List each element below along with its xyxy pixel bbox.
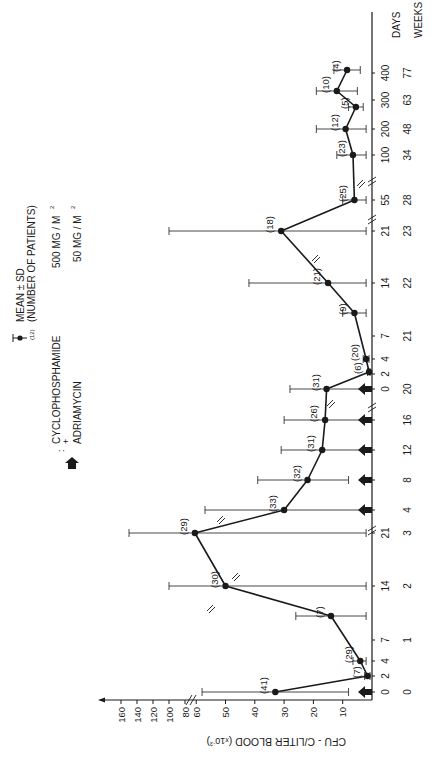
patient-count-label: (29) (178, 518, 189, 535)
data-point (319, 447, 325, 453)
legend-sample-n: (12) (29, 329, 35, 340)
patient-count-label: (10) (320, 76, 331, 93)
x-tick-label-week: 28 (402, 194, 413, 206)
x-tick-label-week: 0 (402, 689, 413, 695)
x-tick-label-week: 21 (402, 330, 413, 342)
x-tick-label-week: 1 (402, 637, 413, 643)
patient-count-label: (5) (339, 97, 350, 109)
data-point (278, 228, 284, 234)
svg-text:CFU - C/LITER BLOOD (x10-3): CFU - C/LITER BLOOD (x10-3) (206, 736, 346, 748)
data-point (351, 197, 357, 203)
data-point (351, 310, 357, 316)
legend-dose-2: 50 MG / M (72, 215, 83, 262)
patient-count-label: (6) (352, 362, 363, 374)
legend-drug-cyclophosphamide: CYCLOPHOSPHAMIDE (51, 335, 62, 444)
data-point (334, 88, 340, 94)
x-tick-label-day: 7 (380, 333, 391, 339)
patient-count-label: (7) (351, 666, 362, 678)
y-tick-label: 50 (220, 707, 231, 718)
patient-count-label: (26) (308, 405, 319, 422)
data-point (325, 280, 331, 286)
data-line (195, 70, 369, 692)
treatment-arrow-icon (358, 383, 372, 395)
x-tick-label-day: 2 (380, 371, 391, 377)
legend-colon: : (56, 449, 66, 452)
patient-count-label: (20) (349, 344, 360, 361)
patient-count-label: (12) (329, 114, 340, 131)
data-point (353, 104, 359, 110)
data-point (304, 477, 310, 483)
patient-count-label: (7) (314, 606, 325, 618)
data-point (272, 689, 278, 695)
legend-sup-2: 2 (70, 205, 76, 209)
y-tick-label: 160 (116, 707, 127, 723)
x-tick-label-week: 8 (402, 477, 413, 483)
data-point (350, 152, 356, 158)
patient-count-label: (23) (336, 140, 347, 157)
x-tick-label-day: 200 (380, 120, 391, 137)
y-tick-label: 80 (180, 707, 191, 718)
data-point (323, 386, 329, 392)
x-tick-label-day: 4 (380, 356, 391, 362)
y-tick-label: 140 (132, 707, 143, 723)
patient-count-label: (25) (337, 185, 348, 202)
data-point (342, 126, 348, 132)
x-tick-label-week: 2 (402, 583, 413, 589)
legend-plus: + (61, 439, 71, 444)
x-axis-label-days: DAYS (391, 11, 402, 38)
treatment-arrow-icon (358, 474, 372, 486)
treatment-arrows (358, 383, 372, 698)
patient-count-label: (18) (264, 216, 275, 233)
data-point (222, 583, 228, 589)
patient-count-label: (31) (310, 374, 321, 391)
legend-errorbar-icon (13, 334, 27, 342)
x-tick-label-day: 21 (380, 527, 391, 539)
x-tick-label-day: 4 (380, 658, 391, 664)
treatment-arrow-icon (358, 444, 372, 456)
legend-drug-adriamycin: ADRIAMYCIN (72, 381, 83, 444)
data-point (366, 369, 372, 375)
x-tick-label-day: 400 (380, 64, 391, 81)
x-tick-label-day: 21 (380, 225, 391, 237)
data-point (357, 658, 363, 664)
x-tick-label-week: 77 (402, 67, 413, 79)
y-axis-arrow-icon (98, 698, 105, 703)
patient-count-label: (32) (291, 465, 302, 482)
patient-count-label: (31) (305, 435, 316, 452)
error-bars (129, 66, 370, 696)
legend-arrow-icon (65, 457, 79, 469)
legend-dose-1: 500 MG / M (51, 216, 62, 268)
patient-count-label: (21) (311, 268, 322, 285)
patient-count-label: (29) (343, 646, 354, 663)
x-tick-label-day: 14 (380, 580, 391, 592)
data-point (192, 530, 198, 536)
data-point (281, 507, 287, 513)
x-tick-label-day: 55 (380, 194, 391, 206)
x-tick-label-week: 20 (402, 383, 413, 395)
y-tick-label: 30 (279, 707, 290, 718)
legend-mean-sd: MEAN ± SD (15, 268, 26, 322)
treatment-arrow-icon (358, 414, 372, 426)
x-tick-label-week: 48 (402, 123, 413, 135)
y-axis-label: CFU - C/LITER BLOOD (x10-3) (206, 736, 346, 748)
patient-count-label: (41) (258, 677, 269, 694)
legend-number-of-patients: (NUMBER OF PATIENTS) (26, 205, 37, 322)
data-point (363, 356, 369, 362)
x-tick-label-day: 0 (380, 386, 391, 392)
x-tick-label-week: 34 (402, 149, 413, 161)
treatment-arrow-icon (358, 686, 372, 698)
x-axis-label-weeks: WEEKS (413, 2, 424, 38)
x-tick-label-week: 23 (402, 225, 413, 237)
x-tick-label-week: 12 (402, 444, 413, 456)
legend-sup-1: 2 (49, 205, 55, 209)
x-tick-label-week: 16 (402, 414, 413, 426)
y-tick-label: 10 (337, 707, 348, 718)
legend: MEAN ± SD (NUMBER OF PATIENTS) (12) : CY… (13, 205, 83, 469)
data-point (328, 613, 334, 619)
x-tick-label-day: 300 (380, 91, 391, 108)
x-tick-label-day: 100 (380, 146, 391, 163)
treatment-arrow-icon (358, 504, 372, 516)
y-tick-label: 20 (308, 707, 319, 718)
data-point (364, 673, 370, 679)
data-point (322, 417, 328, 423)
